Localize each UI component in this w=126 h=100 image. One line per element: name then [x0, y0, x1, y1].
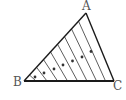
point-dot	[90, 50, 93, 53]
side-ab	[24, 13, 86, 81]
vertex-label-b: B	[13, 75, 22, 89]
triangle-diagram: A B C	[0, 0, 126, 100]
point-dot	[53, 68, 56, 71]
point-dot	[43, 72, 46, 75]
parallel-line	[37, 67, 48, 81]
parallel-line	[72, 29, 97, 81]
point-dot	[62, 64, 65, 67]
point-dot	[81, 56, 84, 59]
parallel-line	[58, 44, 78, 81]
vertex-label-c: C	[113, 79, 122, 93]
point-dot	[71, 60, 74, 63]
parallel-line	[51, 52, 68, 81]
point-dot	[34, 76, 37, 79]
parallel-lines	[30, 21, 106, 81]
vertex-label-a: A	[81, 0, 91, 13]
parallel-line	[65, 37, 88, 81]
parallel-line	[44, 60, 58, 81]
